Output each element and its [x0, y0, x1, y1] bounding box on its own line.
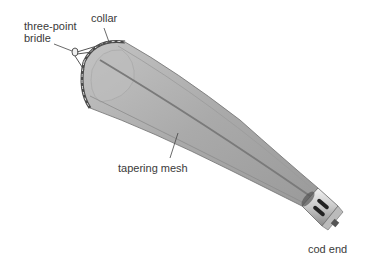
collar-leader: [104, 28, 109, 42]
bridle-leader: [54, 44, 72, 51]
tapering-mesh-label: tapering mesh: [118, 162, 188, 174]
tapering-mesh: [82, 41, 318, 206]
cod-end-label: cod end: [308, 243, 347, 255]
bridle-label-line2: bridle: [24, 32, 77, 44]
plankton-net-diagram: three-point bridle collar tapering mesh …: [0, 0, 365, 266]
bridle-label-line1: three-point: [24, 20, 77, 32]
collar-label: collar: [91, 12, 117, 24]
three-point-bridle-label: three-point bridle: [24, 20, 77, 44]
